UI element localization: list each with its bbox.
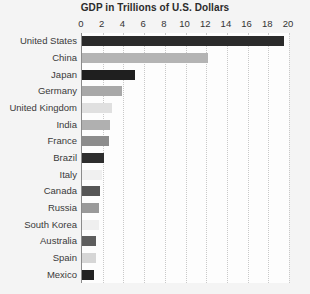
x-tick-label-2: 2 <box>99 18 104 29</box>
x-tick-label-6: 6 <box>140 18 145 29</box>
bar-row <box>82 270 289 280</box>
plot-area <box>81 33 289 283</box>
bar-row <box>82 53 289 63</box>
x-tick-label-10: 10 <box>179 18 190 29</box>
bar-australia <box>82 236 96 246</box>
bar-france <box>82 136 109 146</box>
category-label-india: India <box>0 119 77 130</box>
bar-row <box>82 236 289 246</box>
x-tick-label-14: 14 <box>221 18 232 29</box>
bar-japan <box>82 70 135 80</box>
bar-row <box>82 36 289 46</box>
bars-layer <box>82 33 289 283</box>
bar-russia <box>82 203 99 213</box>
bar-china <box>82 53 208 63</box>
bar-row <box>82 136 289 146</box>
category-label-france: France <box>0 135 77 146</box>
category-label-canada: Canada <box>0 185 77 196</box>
category-label-spain: Spain <box>0 252 77 263</box>
bar-brazil <box>82 153 104 163</box>
bar-mexico <box>82 270 94 280</box>
x-tick-label-4: 4 <box>120 18 125 29</box>
gridline-20 <box>289 33 290 283</box>
bar-row <box>82 170 289 180</box>
x-tick-label-8: 8 <box>161 18 166 29</box>
x-axis-tick-labels: 02468101214161820 <box>0 18 310 32</box>
bar-italy <box>82 170 102 180</box>
bar-row <box>82 120 289 130</box>
category-label-china: China <box>0 52 77 63</box>
category-label-italy: Italy <box>0 169 77 180</box>
category-label-mexico: Mexico <box>0 269 77 280</box>
bar-united-states <box>82 36 284 46</box>
category-label-south-korea: South Korea <box>0 219 77 230</box>
x-tick-label-18: 18 <box>262 18 273 29</box>
bar-row <box>82 253 289 263</box>
bar-united-kingdom <box>82 103 112 113</box>
bar-row <box>82 153 289 163</box>
bar-row <box>82 203 289 213</box>
bar-india <box>82 120 110 130</box>
x-tick-label-0: 0 <box>78 18 83 29</box>
category-label-united-kingdom: United Kingdom <box>0 102 77 113</box>
bar-canada <box>82 186 100 196</box>
category-label-japan: Japan <box>0 69 77 80</box>
bar-row <box>82 220 289 230</box>
bar-south-korea <box>82 220 99 230</box>
y-axis-category-labels: United StatesChinaJapanGermanyUnited Kin… <box>0 33 77 283</box>
x-tick-label-12: 12 <box>200 18 211 29</box>
x-tick-label-20: 20 <box>283 18 294 29</box>
chart-title: GDP in Trillions of U.S. Dollars <box>0 2 310 13</box>
x-tick-label-16: 16 <box>241 18 252 29</box>
gdp-bar-chart: GDP in Trillions of U.S. Dollars 0246810… <box>0 0 310 294</box>
category-label-germany: Germany <box>0 85 77 96</box>
bar-row <box>82 103 289 113</box>
category-label-united-states: United States <box>0 35 77 46</box>
category-label-brazil: Brazil <box>0 152 77 163</box>
category-label-russia: Russia <box>0 202 77 213</box>
category-label-australia: Australia <box>0 235 77 246</box>
bar-row <box>82 86 289 96</box>
bar-spain <box>82 253 96 263</box>
bar-germany <box>82 86 122 96</box>
bar-row <box>82 70 289 80</box>
bar-row <box>82 186 289 196</box>
